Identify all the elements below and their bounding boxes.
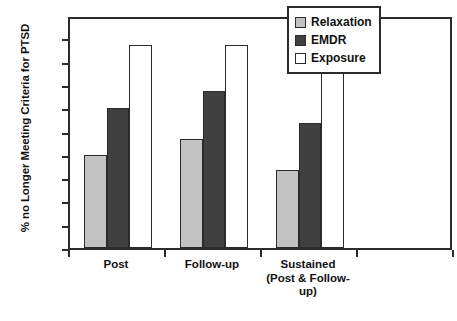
bar-chart-figure: % no Longer Meeting Criteria for PTSD 01… bbox=[0, 0, 457, 321]
figure-caption bbox=[0, 312, 457, 321]
legend-item-emdr: EMDR bbox=[295, 31, 372, 49]
x-category-label-line: Follow-up bbox=[164, 258, 260, 272]
x-tick-mark bbox=[260, 250, 262, 257]
x-category-label-line: Sustained bbox=[260, 258, 356, 272]
legend-item-relaxation: Relaxation bbox=[295, 13, 372, 31]
legend-swatch-emdr-icon bbox=[295, 35, 306, 46]
x-tick-mark bbox=[68, 250, 70, 257]
legend-label-exposure: Exposure bbox=[311, 51, 366, 65]
bars-layer bbox=[70, 19, 450, 248]
x-tick-mark bbox=[356, 250, 358, 257]
legend-label-relaxation: Relaxation bbox=[311, 15, 372, 29]
bar-exposure bbox=[129, 45, 151, 248]
bar-emdr bbox=[107, 108, 129, 248]
x-category-label: Sustained(Post & Follow-up) bbox=[260, 258, 356, 299]
x-category-label-line: (Post & Follow- bbox=[260, 272, 356, 286]
x-category-label: Post bbox=[68, 258, 164, 272]
bar-relaxation bbox=[84, 155, 106, 248]
legend-swatch-relaxation-icon bbox=[295, 17, 306, 28]
x-category-label-line: Post bbox=[68, 258, 164, 272]
legend-label-emdr: EMDR bbox=[311, 33, 346, 47]
y-axis-title: % no Longer Meeting Criteria for PTSD bbox=[19, 6, 31, 250]
plot-area bbox=[68, 17, 452, 250]
bar-exposure bbox=[321, 62, 343, 248]
chart-legend: Relaxation EMDR Exposure bbox=[287, 6, 381, 74]
x-tick-mark bbox=[164, 250, 166, 257]
legend-swatch-exposure-icon bbox=[295, 53, 306, 64]
bar-relaxation bbox=[180, 139, 202, 249]
x-category-label-line: up) bbox=[260, 285, 356, 299]
bar-exposure bbox=[225, 45, 247, 248]
bar-relaxation bbox=[276, 170, 298, 248]
bar-emdr bbox=[203, 91, 225, 248]
bar-emdr bbox=[299, 123, 321, 248]
x-tick-mark bbox=[452, 250, 454, 257]
legend-item-exposure: Exposure bbox=[295, 49, 372, 67]
x-category-label: Follow-up bbox=[164, 258, 260, 272]
